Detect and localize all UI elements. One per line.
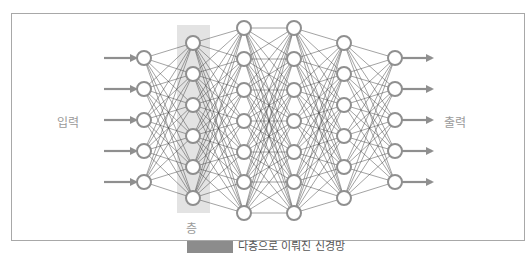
hidden-node	[287, 114, 301, 128]
output-node	[388, 51, 402, 65]
input-node	[137, 113, 151, 127]
hidden-node	[337, 36, 351, 50]
hidden-node	[237, 145, 251, 159]
edge	[294, 43, 344, 182]
hidden-node	[186, 36, 200, 50]
hidden-node	[287, 21, 301, 35]
edge	[344, 58, 395, 136]
edge	[344, 58, 395, 198]
edge	[294, 43, 344, 121]
output-node	[388, 175, 402, 189]
edge	[344, 58, 395, 105]
hidden-node	[237, 83, 251, 97]
input-label: 입력	[57, 113, 79, 130]
output-node	[388, 82, 402, 96]
input-node	[137, 51, 151, 65]
edge	[344, 151, 395, 198]
figure-caption: 다층으로 이뤄진 신경망	[187, 241, 345, 255]
hidden-node	[287, 52, 301, 66]
hidden-node	[237, 206, 251, 220]
hidden-node	[186, 191, 200, 205]
hidden-node	[337, 67, 351, 81]
edge	[294, 167, 344, 213]
edge	[294, 43, 344, 90]
input-node	[137, 175, 151, 189]
hidden-node	[337, 160, 351, 174]
hidden-node	[237, 114, 251, 128]
hidden-node	[186, 98, 200, 112]
edge	[294, 74, 344, 213]
hidden-node	[287, 145, 301, 159]
hidden-node	[337, 129, 351, 143]
hidden-node	[337, 98, 351, 112]
hidden-node	[186, 160, 200, 174]
layer-label: 층	[186, 219, 197, 236]
output-label: 출력	[444, 113, 466, 130]
edge	[344, 182, 395, 198]
input-node	[137, 82, 151, 96]
hidden-node	[186, 67, 200, 81]
hidden-node	[237, 21, 251, 35]
edge	[344, 120, 395, 198]
hidden-node	[237, 52, 251, 66]
hidden-node	[287, 206, 301, 220]
hidden-node	[287, 83, 301, 97]
hidden-node	[237, 175, 251, 189]
edge	[344, 58, 395, 74]
hidden-node	[337, 191, 351, 205]
caption-text: 다층으로 이뤄진 신경망	[238, 241, 345, 253]
caption-tag	[187, 241, 233, 253]
input-node	[137, 144, 151, 158]
hidden-node	[186, 129, 200, 143]
output-node	[388, 113, 402, 127]
edge	[294, 136, 344, 213]
hidden-node	[287, 175, 301, 189]
output-node	[388, 144, 402, 158]
